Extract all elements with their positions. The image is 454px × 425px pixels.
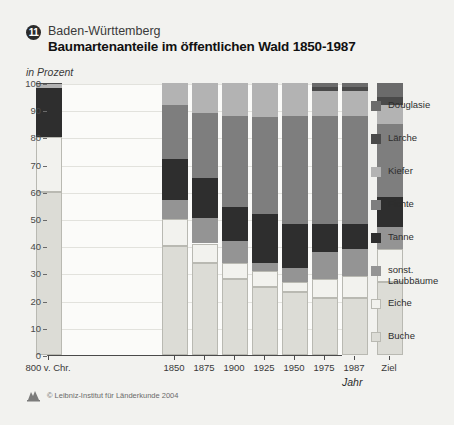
- legend-label: Tanne: [388, 232, 414, 243]
- y-axis-tick-label: 50: [17, 215, 41, 224]
- legend-item-buche[interactable]: Buche: [371, 331, 415, 342]
- bar-segment-buche: [162, 246, 188, 355]
- y-axis-tick-mark: [43, 111, 47, 112]
- legend-item-douglasie[interactable]: Douglasie: [371, 100, 430, 111]
- x-axis-tick-label: Ziel: [354, 363, 424, 373]
- y-axis-tick-mark: [43, 84, 47, 85]
- legend-item-eiche[interactable]: Eiche: [371, 298, 412, 309]
- bar-segment-tanne: [222, 207, 248, 241]
- x-axis-tick-label: 800 v. Chr.: [13, 363, 83, 373]
- bar-segment-eiche: [192, 244, 218, 263]
- x-axis-tick-mark: [324, 356, 325, 360]
- x-axis-tick-mark: [204, 356, 205, 360]
- bar-segment-kiefer: [312, 91, 338, 115]
- legend-swatch-tanne-icon: [371, 233, 381, 243]
- legend-item-laerche[interactable]: Lärche: [371, 133, 417, 144]
- legend-swatch-laerche-icon: [371, 134, 381, 144]
- x-axis-tick-mark: [174, 356, 175, 360]
- legend-item-sonst-laubbaeume[interactable]: sonst. Laubbäume: [371, 265, 438, 286]
- x-axis-tick-mark: [48, 356, 49, 360]
- bar-segment-fichte: [252, 117, 278, 214]
- chart-subtitle: in Prozent: [26, 66, 73, 78]
- legend-swatch-douglasie-icon: [371, 101, 381, 111]
- bar-segment-tanne: [342, 224, 368, 248]
- bar-group: [48, 84, 342, 355]
- bar-segment-sonst_laubbaeume: [282, 268, 308, 282]
- x-axis-title: Jahr: [342, 376, 362, 388]
- bar-segment-fichte: [162, 105, 188, 159]
- bar-segment-eiche: [252, 271, 278, 287]
- y-axis-tick-mark: [43, 247, 47, 248]
- plot-area: [47, 84, 342, 356]
- bar-segment-fichte: [312, 116, 338, 225]
- y-axis-tick-mark: [43, 356, 47, 357]
- ifl-logo-icon: [26, 388, 41, 403]
- legend-item-kiefer[interactable]: Kiefer: [371, 166, 413, 177]
- figure-number-badge: 11: [26, 25, 41, 40]
- bar-segment-kiefer: [282, 83, 308, 116]
- y-axis-tick-label: 90: [17, 106, 41, 115]
- x-axis-tick-mark: [234, 356, 235, 360]
- bar-segment-buche: [282, 292, 308, 355]
- legend-swatch-sonst-laubbaeume-icon: [371, 266, 381, 276]
- bar-segment-kiefer: [222, 83, 248, 116]
- bar-1875: [192, 83, 218, 355]
- bar-segment-buche: [192, 263, 218, 355]
- bar-segment-eiche: [222, 263, 248, 279]
- legend-label: Buche: [388, 331, 415, 342]
- bar-segment-kiefer: [162, 83, 188, 105]
- bar-segment-laerche: [342, 87, 368, 91]
- y-axis-tick-mark: [43, 302, 47, 303]
- bar-segment-buche: [342, 298, 368, 355]
- bar-1987: [342, 83, 368, 355]
- copyright-text: © Leibniz-Institut für Länderkunde 2004: [47, 391, 178, 400]
- bar-segment-douglasie: [312, 83, 338, 87]
- y-axis-tick-mark: [43, 274, 47, 275]
- y-axis-tick-label: 70: [17, 161, 41, 170]
- bar-segment-sonst_laubbaeume: [252, 263, 278, 271]
- legend-item-fichte[interactable]: Fichte: [371, 199, 414, 210]
- bar-segment-buche: [222, 279, 248, 355]
- y-axis-tick-label: 30: [17, 269, 41, 278]
- bar-segment-fichte: [192, 113, 218, 178]
- bar-segment-buche: [252, 287, 278, 355]
- legend-label: Douglasie: [388, 100, 430, 111]
- y-axis-tick-mark: [43, 166, 47, 167]
- bar-segment-sonst_laubbaeume: [162, 200, 188, 219]
- legend-item-tanne[interactable]: Tanne: [371, 232, 414, 243]
- footer: © Leibniz-Institut für Länderkunde 2004: [26, 388, 178, 403]
- bar-segment-tanne: [282, 224, 308, 268]
- bar-1975: [312, 83, 338, 355]
- y-axis-tick-label: 80: [17, 133, 41, 142]
- bar-ziel: [377, 83, 403, 355]
- bar-segment-sonst_laubbaeume: [192, 218, 218, 244]
- bar-segment-fichte: [342, 116, 368, 225]
- x-axis-tick-mark: [264, 356, 265, 360]
- y-axis-tick-mark: [43, 193, 47, 194]
- bar-segment-tanne: [252, 214, 278, 263]
- x-axis-tick-mark: [354, 356, 355, 360]
- bar-1925: [252, 83, 278, 355]
- bar-segment-eiche: [162, 219, 188, 246]
- y-axis-tick-label: 0: [17, 351, 41, 360]
- bar-segment-eiche: [312, 279, 338, 298]
- legend-swatch-eiche-icon: [371, 299, 381, 309]
- legend-label: Fichte: [388, 199, 414, 210]
- legend-label: Kiefer: [388, 166, 413, 177]
- legend-swatch-buche-icon: [371, 332, 381, 342]
- bar-segment-kiefer: [192, 83, 218, 113]
- y-axis-tick-label: 20: [17, 297, 41, 306]
- bar-1950: [282, 83, 308, 355]
- bar-segment-eiche: [342, 276, 368, 298]
- bar-segment-tanne: [312, 224, 338, 251]
- y-axis-tick-label: 10: [17, 324, 41, 333]
- chart-page: 11 Baden-Württemberg Baumartenanteile im…: [0, 0, 454, 425]
- bar-segment-fichte: [222, 116, 248, 207]
- bar-segment-kiefer: [342, 91, 368, 115]
- bar-segment-eiche: [282, 282, 308, 293]
- y-axis-tick-label: 100: [17, 79, 41, 88]
- bar-segment-douglasie: [342, 83, 368, 87]
- bar-segment-buche: [312, 298, 338, 355]
- bar-segment-fichte: [282, 116, 308, 225]
- legend-label: sonst. Laubbäume: [388, 265, 438, 286]
